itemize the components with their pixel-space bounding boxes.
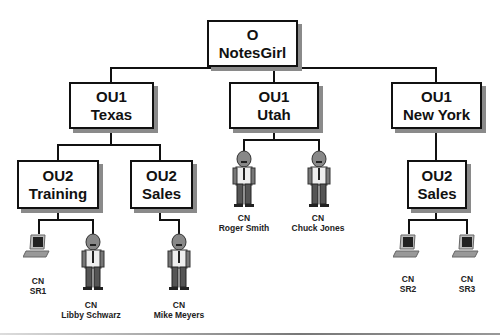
- leaf-type: CN: [459, 274, 476, 284]
- node-ou2-sales-newyork[interactable]: OU2 Sales: [407, 160, 467, 209]
- connector-utah-bar: [243, 139, 320, 141]
- connector-sr2-up: [408, 219, 410, 234]
- leaf-label-sr1: CN SR1: [30, 276, 47, 296]
- node-name: Sales: [132, 185, 191, 203]
- node-ou2-sales-texas[interactable]: OU2 Sales: [130, 160, 193, 209]
- leaf-type: CN: [61, 300, 121, 310]
- connector-sales-up: [159, 144, 161, 161]
- leaf-label-chuck: CN Chuck Jones: [292, 213, 345, 233]
- person-icon[interactable]: [307, 150, 331, 208]
- leaf-type: CN: [400, 274, 417, 284]
- connector-mike-up: [178, 219, 180, 234]
- node-type: OU2: [19, 167, 97, 185]
- leaf-label-sr3: CN SR3: [459, 274, 476, 294]
- leaf-label-libby: CN Libby Schwarz: [61, 300, 121, 320]
- person-icon[interactable]: [167, 233, 191, 291]
- computer-icon[interactable]: [393, 233, 423, 259]
- node-name: NotesGirl: [209, 44, 296, 62]
- connector-sales-bar: [159, 219, 180, 221]
- leaf-type: CN: [292, 213, 345, 223]
- connector-utah-up: [273, 67, 275, 83]
- node-ou1-utah[interactable]: OU1 Utah: [229, 82, 319, 129]
- leaf-type: CN: [154, 300, 205, 310]
- connector-texas-up: [110, 67, 112, 83]
- connector-newyork-up: [435, 67, 437, 83]
- leaf-name: SR2: [400, 284, 417, 294]
- leaf-name: Mike Meyers: [154, 310, 205, 320]
- computer-icon[interactable]: [452, 233, 482, 259]
- node-name: Texas: [71, 106, 152, 124]
- connector-newyork-down: [435, 128, 437, 161]
- leaf-name: SR3: [459, 284, 476, 294]
- node-type: OU2: [409, 167, 465, 185]
- connector-sr1-up: [38, 219, 40, 234]
- connector-libby-up: [92, 219, 94, 234]
- node-name: New York: [393, 106, 480, 124]
- leaf-name: Roger Smith: [219, 223, 270, 233]
- node-ou1-texas[interactable]: OU1 Texas: [69, 82, 154, 129]
- node-ou1-newyork[interactable]: OU1 New York: [391, 82, 482, 129]
- node-ou2-training[interactable]: OU2 Training: [17, 160, 99, 209]
- node-type: O: [209, 26, 296, 44]
- node-name: Sales: [409, 185, 465, 203]
- connector-sr3-up: [466, 219, 468, 234]
- leaf-label-roger: CN Roger Smith: [219, 213, 270, 233]
- node-name: Training: [19, 185, 97, 203]
- leaf-name: Chuck Jones: [292, 223, 345, 233]
- connector-training-bar: [38, 219, 94, 221]
- connector-nysales-bar: [408, 219, 468, 221]
- person-icon[interactable]: [232, 150, 256, 208]
- node-name: Utah: [231, 106, 317, 124]
- node-type: OU1: [231, 88, 317, 106]
- node-type: OU2: [132, 167, 191, 185]
- node-type: OU1: [71, 88, 152, 106]
- leaf-type: CN: [30, 276, 47, 286]
- connector-texas-down: [110, 128, 112, 145]
- leaf-name: SR1: [30, 286, 47, 296]
- bottom-divider: [0, 333, 500, 335]
- leaf-label-sr2: CN SR2: [400, 274, 417, 294]
- leaf-name: Libby Schwarz: [61, 310, 121, 320]
- connector-texas-bar: [57, 144, 161, 146]
- leaf-label-mike: CN Mike Meyers: [154, 300, 205, 320]
- connector-training-up: [57, 144, 59, 161]
- person-icon[interactable]: [81, 233, 105, 291]
- node-type: OU1: [393, 88, 480, 106]
- node-root[interactable]: O NotesGirl: [207, 20, 298, 67]
- computer-icon[interactable]: [23, 233, 53, 259]
- leaf-type: CN: [219, 213, 270, 223]
